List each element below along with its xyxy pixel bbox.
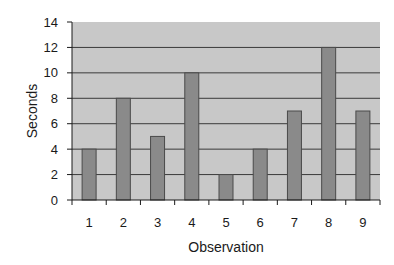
- x-tick-label: 3: [154, 215, 161, 230]
- y-tick-label: 0: [51, 193, 58, 208]
- bar-observation-5: [219, 175, 233, 200]
- x-tick-label: 5: [222, 215, 229, 230]
- bar-chart: 02468101214 123456789 Seconds Observatio…: [0, 0, 394, 265]
- x-tick-label: 8: [325, 215, 332, 230]
- y-tick-label: 10: [44, 65, 58, 80]
- bar-observation-8: [322, 47, 336, 200]
- y-tick-label: 2: [51, 167, 58, 182]
- x-tick-label: 2: [120, 215, 127, 230]
- x-axis-title: Observation: [188, 239, 263, 255]
- bar-observation-9: [356, 111, 370, 200]
- bar-observation-4: [185, 73, 199, 200]
- x-tick-label: 6: [257, 215, 264, 230]
- bar-observation-7: [287, 111, 301, 200]
- y-tick-label: 6: [51, 116, 58, 131]
- x-tick-label: 9: [359, 215, 366, 230]
- y-tick-label: 8: [51, 91, 58, 106]
- y-tick-labels: 02468101214: [44, 15, 58, 208]
- y-tick-label: 12: [44, 40, 58, 55]
- x-tick-label: 7: [291, 215, 298, 230]
- y-tick-label: 4: [51, 142, 58, 157]
- bar-observation-2: [116, 98, 130, 200]
- bar-observation-3: [151, 136, 165, 200]
- y-axis-title: Seconds: [24, 84, 40, 138]
- x-tick-label: 1: [85, 215, 92, 230]
- x-tick-labels: 123456789: [85, 215, 366, 230]
- x-tick-label: 4: [188, 215, 195, 230]
- bar-observation-1: [82, 149, 96, 200]
- y-tick-label: 14: [44, 15, 58, 30]
- bar-observation-6: [253, 149, 267, 200]
